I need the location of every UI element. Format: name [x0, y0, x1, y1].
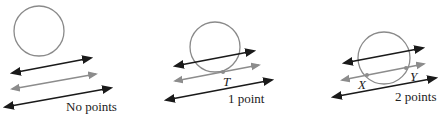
- panel-no-points: No points: [5, 6, 117, 114]
- caption: 1 point: [228, 91, 265, 106]
- line-gray-tangent: [175, 65, 259, 81]
- circle: [14, 6, 64, 56]
- caption: No points: [66, 99, 117, 114]
- panel-one-point: T 1 point: [166, 22, 272, 106]
- panel-two-points: X Y 2 points: [333, 32, 437, 104]
- point-label-t: T: [223, 74, 231, 89]
- caption: 2 points: [395, 89, 437, 104]
- point-label-x: X: [357, 77, 367, 92]
- line-dark-secant: [175, 51, 254, 66]
- line-dark-upper: [12, 58, 91, 73]
- line-gray: [12, 74, 96, 89]
- circle: [190, 22, 240, 72]
- point-y: [404, 66, 408, 70]
- line-dark-secant: [344, 48, 423, 63]
- circle-line-intersections-diagram: No points T 1 point X Y 2 points: [0, 0, 446, 117]
